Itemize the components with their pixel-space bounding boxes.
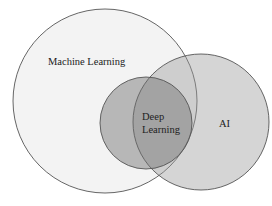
venn-diagram: Machine Learning AI Deep Learning xyxy=(0,0,272,206)
deep-learning-circle xyxy=(100,77,192,169)
ai-label: AI xyxy=(219,118,231,129)
machine-learning-label: Machine Learning xyxy=(48,56,126,67)
deep-learning-label-line2: Learning xyxy=(142,124,181,135)
deep-learning-label-line1: Deep xyxy=(142,111,164,122)
